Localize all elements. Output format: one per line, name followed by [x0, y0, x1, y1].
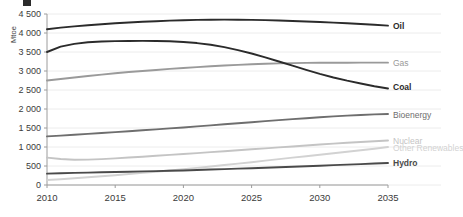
- series-lines: [47, 20, 388, 180]
- legend-label-other-renewables[interactable]: Other Renewables: [393, 143, 463, 153]
- axis-lines: [44, 14, 388, 188]
- series-line-bioenergy: [47, 114, 388, 136]
- series-line-hydro: [47, 163, 388, 174]
- legend-label-bioenergy[interactable]: Bioenergy: [393, 110, 431, 120]
- legend-label-gas[interactable]: Gas: [393, 58, 409, 68]
- legend-label-oil[interactable]: Oil: [393, 21, 404, 31]
- series-line-nuclear: [47, 141, 388, 160]
- series-line-oil: [47, 20, 388, 30]
- legend-label-hydro[interactable]: Hydro: [393, 158, 418, 168]
- legend-label-coal[interactable]: Coal: [393, 82, 411, 92]
- series-line-coal: [47, 41, 388, 89]
